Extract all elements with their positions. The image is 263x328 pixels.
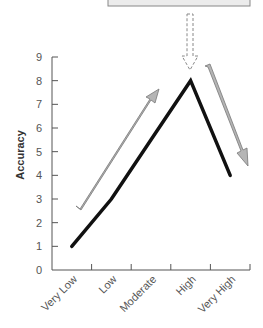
y-tick-label: 6 bbox=[36, 122, 42, 134]
y-tick-label: 3 bbox=[36, 193, 42, 205]
y-tick-label: 2 bbox=[36, 217, 42, 229]
y-tick-label: 5 bbox=[36, 146, 42, 158]
x-tick-label: High bbox=[174, 273, 198, 297]
x-tick-labels: Very LowLowModerateHighVery High bbox=[39, 273, 238, 315]
x-tick-label: Very High bbox=[195, 273, 237, 315]
y-tick-label: 1 bbox=[36, 240, 42, 252]
falling-trend-arrow-icon bbox=[205, 64, 248, 166]
top-caption-box bbox=[108, 0, 250, 6]
y-tick-label: 8 bbox=[36, 75, 42, 87]
y-axis-label: Accuracy bbox=[14, 129, 26, 179]
dashed-down-arrow-icon bbox=[182, 14, 198, 70]
x-tick-label: Very Low bbox=[39, 273, 80, 314]
y-tick-label: 9 bbox=[36, 51, 42, 63]
y-tick-label: 4 bbox=[36, 169, 42, 181]
x-axis bbox=[52, 264, 250, 270]
accuracy-line bbox=[72, 81, 230, 247]
x-tick-label: Moderate bbox=[117, 273, 158, 314]
y-tick-label: 7 bbox=[36, 98, 42, 110]
x-tick-label: Low bbox=[96, 273, 119, 296]
y-tick-labels: 0123456789 bbox=[36, 51, 42, 276]
y-tick-label: 0 bbox=[36, 264, 42, 276]
y-axis bbox=[52, 57, 58, 270]
accuracy-chart: 0123456789 Accuracy Very LowLowModerateH… bbox=[0, 0, 263, 328]
